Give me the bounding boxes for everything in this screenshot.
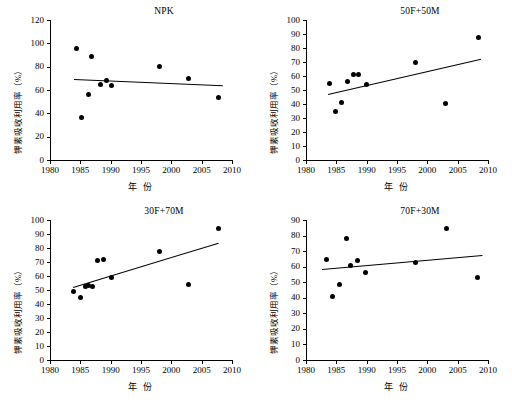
y-tick — [303, 344, 306, 345]
x-tick — [171, 361, 172, 364]
x-tick-label: 2010 — [472, 366, 504, 375]
y-tick — [303, 20, 306, 21]
y-tick-label: 0 — [16, 356, 44, 365]
y-tick — [47, 276, 50, 277]
x-tick-label: 1985 — [64, 166, 96, 175]
x-tick — [367, 161, 368, 164]
data-point — [339, 100, 344, 105]
data-point — [413, 60, 418, 65]
y-tick-label: 0 — [272, 156, 300, 165]
y-tick — [303, 282, 306, 283]
data-point — [186, 282, 191, 287]
x-axis-label: 年 份 — [306, 380, 488, 393]
y-tick — [47, 248, 50, 249]
figure-panel-grid: NPK0204060801001201980198519901995200020… — [0, 0, 512, 407]
data-point — [71, 289, 76, 294]
x-tick-label: 1990 — [95, 366, 127, 375]
y-tick-label: 100 — [16, 39, 44, 48]
x-tick — [111, 361, 112, 364]
x-tick — [50, 361, 51, 364]
x-tick — [202, 161, 203, 164]
y-axis — [306, 220, 307, 360]
y-tick — [303, 104, 306, 105]
x-tick-label: 2005 — [442, 166, 474, 175]
data-point — [363, 270, 368, 275]
trend-line — [74, 79, 223, 86]
data-point — [444, 226, 449, 231]
x-tick — [427, 161, 428, 164]
x-tick-label: 1995 — [381, 166, 413, 175]
data-point — [475, 275, 480, 280]
data-point — [101, 257, 106, 262]
y-tick-label: 70 — [272, 247, 300, 256]
x-tick-label: 1995 — [381, 366, 413, 375]
y-tick — [47, 290, 50, 291]
x-tick — [336, 161, 337, 164]
x-tick — [50, 161, 51, 164]
y-axis — [50, 20, 51, 160]
x-tick-label: 2010 — [216, 166, 248, 175]
x-tick-label: 2010 — [472, 166, 504, 175]
y-tick — [303, 236, 306, 237]
x-tick — [111, 161, 112, 164]
data-point — [333, 109, 338, 114]
y-tick — [47, 113, 50, 114]
y-tick-label: 0 — [272, 356, 300, 365]
x-tick — [141, 361, 142, 364]
data-point — [324, 257, 329, 262]
data-point — [104, 78, 109, 83]
y-tick — [303, 118, 306, 119]
data-point — [345, 79, 350, 84]
data-point — [413, 260, 418, 265]
y-axis-label: 钾素吸收利用率（%） — [11, 66, 23, 154]
x-tick — [336, 361, 337, 364]
x-tick-label: 1990 — [95, 166, 127, 175]
data-point — [356, 72, 361, 77]
data-point — [79, 115, 84, 120]
x-tick-label: 1990 — [351, 366, 383, 375]
y-tick-label: 100 — [272, 16, 300, 25]
y-tick-label: 120 — [16, 16, 44, 25]
data-point — [355, 258, 360, 263]
data-point — [78, 295, 83, 300]
x-tick — [80, 161, 81, 164]
x-tick — [232, 361, 233, 364]
x-tick-label: 1995 — [125, 366, 157, 375]
y-tick — [303, 313, 306, 314]
x-tick-label: 2010 — [216, 366, 248, 375]
x-tick — [367, 361, 368, 364]
data-point — [109, 83, 114, 88]
y-tick-label: 90 — [272, 216, 300, 225]
x-axis-label: 年 份 — [306, 180, 488, 193]
x-tick-label: 2005 — [442, 366, 474, 375]
y-tick — [47, 67, 50, 68]
x-tick-label: 2005 — [186, 366, 218, 375]
x-tick-label: 2005 — [186, 166, 218, 175]
chart-panel-1: NPK0204060801001201980198519901995200020… — [0, 0, 256, 198]
x-tick — [171, 161, 172, 164]
y-tick — [303, 34, 306, 35]
trend-line — [73, 243, 219, 288]
x-tick-label: 1990 — [351, 166, 383, 175]
y-tick — [303, 251, 306, 252]
data-point — [216, 95, 221, 100]
trend-line — [322, 255, 482, 270]
x-tick-label: 2000 — [155, 366, 187, 375]
y-tick — [303, 220, 306, 221]
y-axis — [50, 220, 51, 360]
data-point — [86, 92, 91, 97]
x-tick — [80, 361, 81, 364]
y-axis-label: 钾素吸收利用率（%） — [11, 266, 23, 354]
chart-panel-4: 70F+30M010203040506070809019801985199019… — [256, 200, 512, 398]
y-tick — [47, 90, 50, 91]
data-point — [364, 82, 369, 87]
y-tick — [47, 220, 50, 221]
x-axis-label: 年 份 — [50, 180, 232, 193]
data-point — [90, 284, 95, 289]
data-point — [344, 236, 349, 241]
y-tick — [303, 48, 306, 49]
y-tick — [47, 43, 50, 44]
x-tick-label: 1980 — [290, 166, 322, 175]
x-tick-label: 1985 — [64, 366, 96, 375]
x-tick-label: 1980 — [34, 366, 66, 375]
